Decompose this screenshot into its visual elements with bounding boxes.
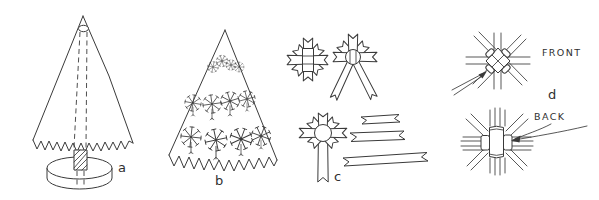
cone-b-zigzag-hem [169,155,277,171]
craft-diagram-page: a [0,0,599,200]
label-d: d [548,87,556,102]
front-pointer-arrow [452,71,487,95]
paper-strip-long [343,153,428,167]
cone-a-top-hole [79,25,89,31]
back-view-star [461,108,587,175]
hidden-dowel-right-edge [86,32,87,148]
small-strip-star [287,38,328,81]
star-row-bottom [180,123,274,159]
label-c: c [334,169,341,184]
cone-a-right-side [83,16,133,143]
back-center-strip [490,126,504,158]
diagram-canvas: a [0,0,599,200]
label-back: BACK [534,111,565,122]
figure-b-decorated-cone: b [169,30,277,188]
figure-c-star-construction: c [287,34,428,184]
hidden-dowel-left-edge [74,32,80,148]
label-b: b [215,173,223,188]
back-right-fold [504,135,513,150]
star-row-middle [184,89,257,120]
star-center-bead [346,50,361,65]
label-a: a [118,160,126,175]
star-center-bead [315,125,332,142]
figure-d-weave-detail: FRONT d BACK [452,32,587,175]
figure-a-cone-on-base: a [33,16,133,189]
front-view-star [452,32,530,95]
paper-strip-short [361,115,400,125]
bead-star-with-hangers [330,34,377,100]
dowel-hatched [74,150,87,170]
paper-strip-medium [350,131,405,142]
back-left-fold [481,136,490,151]
cone-b-left-side [169,30,225,155]
small-star-center [303,49,314,72]
label-front: FRONT [542,47,581,58]
back-pointer-arrow [511,124,587,143]
